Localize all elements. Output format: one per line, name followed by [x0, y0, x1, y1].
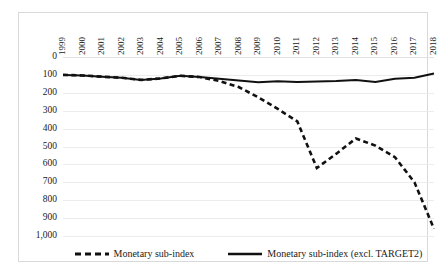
chart-legend: Monetary sub-indexMonetary sub-index (ex…: [63, 245, 434, 263]
x-axis-tick-label: 2001: [97, 37, 106, 55]
x-axis-tick-label: 2003: [136, 37, 145, 55]
legend-solid-swatch-icon: [228, 249, 262, 259]
legend-item-label: Monetary sub-index (excl. TARGET2): [267, 249, 422, 259]
x-axis-tick-label: 2000: [78, 37, 87, 55]
x-axis: 1999200020012002200320042005200620072008…: [63, 13, 434, 57]
y-axis-tick-label: 300: [43, 106, 57, 116]
legend-dashed-swatch-icon: [75, 249, 109, 259]
y-axis-tick-label: 700: [43, 178, 57, 188]
legend-item[interactable]: Monetary sub-index: [75, 249, 195, 259]
legend-item-label: Monetary sub-index: [114, 249, 195, 259]
series-line: [63, 73, 434, 82]
x-axis-tick-label: 2016: [390, 37, 399, 55]
plot-area: [63, 57, 434, 236]
x-axis-tick-label: 2009: [253, 37, 262, 55]
x-axis-tick-label: 2015: [370, 37, 379, 55]
x-axis-tick-label: 2007: [214, 37, 223, 55]
x-axis-tick-label: 2012: [312, 37, 321, 55]
series-layer: [63, 57, 434, 236]
x-axis-tick-label: 2014: [351, 37, 360, 55]
y-axis-tick-label: 400: [43, 124, 57, 134]
y-axis-tick-label: 1,000: [36, 231, 57, 241]
x-axis-tick-label: 2002: [117, 37, 126, 55]
x-axis-tick-label: 2017: [409, 37, 418, 55]
y-axis-tick-label: 800: [43, 195, 57, 205]
x-axis-tick-label: 2010: [273, 37, 282, 55]
x-axis-tick-label: 2018: [429, 37, 438, 55]
y-axis-tick-label: 500: [43, 142, 57, 152]
x-axis-tick-label: 2005: [175, 37, 184, 55]
y-axis: 01002003004005006007008009001,000: [19, 57, 61, 236]
gridline: [63, 236, 434, 237]
x-axis-tick-label: 2006: [195, 37, 204, 55]
x-axis-tick-label: 1999: [58, 37, 67, 55]
y-axis-tick-label: 200: [43, 88, 57, 98]
chart-container: 01002003004005006007008009001,000 199920…: [18, 12, 428, 262]
y-axis-tick-label: 100: [43, 70, 57, 80]
x-axis-tick-label: 2011: [292, 37, 301, 55]
y-axis-tick-label: 900: [43, 213, 57, 223]
x-axis-tick-label: 2013: [331, 37, 340, 55]
y-axis-tick-label: 600: [43, 160, 57, 170]
x-axis-tick-label: 2004: [156, 37, 165, 55]
legend-item[interactable]: Monetary sub-index (excl. TARGET2): [228, 249, 422, 259]
x-axis-tick-label: 2008: [234, 37, 243, 55]
series-line: [63, 75, 434, 229]
